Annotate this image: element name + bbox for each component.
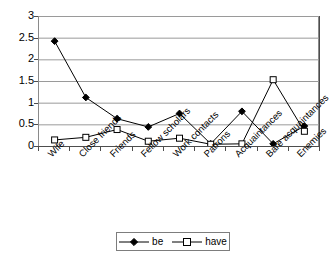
chart-legend: behave [116,232,230,251]
legend-item-be[interactable]: be [119,236,163,248]
legend-label: have [205,237,227,247]
plot-svg [39,16,320,146]
y-axis-tick-mark [34,59,38,60]
y-axis-tick-mark [34,81,38,82]
data-point-have [301,128,307,134]
open-square-icon [172,236,202,248]
x-axis-tick-mark [163,147,164,151]
x-axis-tick-mark [100,147,101,151]
data-point-have [270,77,276,83]
y-axis-tick-mark [34,38,38,39]
y-axis-tick-label: 3 [4,10,34,21]
filled-diamond-icon [119,236,149,248]
x-axis-tick-mark [319,147,320,151]
x-axis-tick-mark [257,147,258,151]
x-axis-tick-mark [38,147,39,151]
line-chart: 32.521.510.50 WifeClose friendsFriendsFe… [0,0,332,261]
y-axis-tick-label: 2 [4,53,34,64]
y-axis-tick-label: 2.5 [4,32,34,43]
x-axis-tick-mark [288,147,289,151]
y-axis-tick-mark [34,124,38,125]
y-axis-tick-labels: 32.521.510.50 [0,0,34,261]
data-point-be [51,38,58,45]
y-axis-tick-label: 0 [4,140,34,151]
x-axis-tick-mark [194,147,195,151]
data-point-be [82,94,89,101]
x-axis-tick-mark [132,147,133,151]
y-axis-tick-label: 1.5 [4,75,34,86]
y-axis-tick-mark [34,16,38,17]
y-axis-tick-label: 0.5 [4,118,34,129]
y-axis-tick-mark [34,146,38,147]
x-axis-tick-mark [225,147,226,151]
x-axis-tick-mark [69,147,70,151]
legend-label: be [152,237,163,247]
y-axis-tick-label: 1 [4,97,34,108]
legend-item-have[interactable]: have [172,236,227,248]
y-axis-tick-mark [34,103,38,104]
